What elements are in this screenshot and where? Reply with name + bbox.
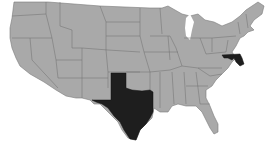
us-map bbox=[0, 0, 267, 156]
us-map-svg bbox=[0, 0, 267, 156]
